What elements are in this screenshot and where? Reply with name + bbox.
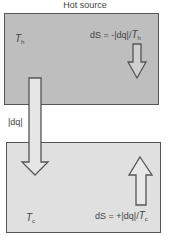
cold-entropy-change-label: dS = +|dq|/Tc [95,210,148,222]
hot-entropy-change-label: dS = -|dq|/Th [90,29,141,41]
cold-temperature-label: Tc [26,212,35,224]
entropy-increase-arrow-icon [129,157,152,205]
heat-flow-label: |dq| [8,117,23,127]
heat-flow-arrow-icon [22,78,48,175]
arrows-layer [0,0,170,236]
entropy-decrease-arrow-icon [128,44,146,78]
hot-temperature-label: Th [15,33,24,45]
